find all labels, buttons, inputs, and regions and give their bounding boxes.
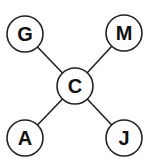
node-c-label: C bbox=[68, 75, 82, 97]
node-m: M bbox=[106, 15, 142, 51]
node-j: J bbox=[106, 120, 142, 156]
nodes: G M C A J bbox=[7, 15, 142, 156]
node-a-label: A bbox=[18, 127, 32, 149]
node-a: A bbox=[7, 120, 43, 156]
node-j-label: J bbox=[118, 127, 129, 149]
node-g: G bbox=[7, 16, 43, 52]
node-g-label: G bbox=[17, 23, 33, 45]
node-m-label: M bbox=[116, 22, 133, 44]
graph-diagram: G M C A J bbox=[0, 0, 152, 162]
node-c: C bbox=[57, 68, 93, 104]
